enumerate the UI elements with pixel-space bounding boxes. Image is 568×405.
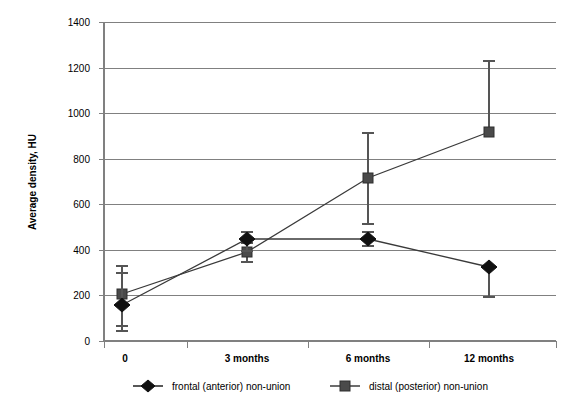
y-axis-title: Average density, HU xyxy=(27,134,38,230)
x-tick-label-6-months: 6 months xyxy=(346,353,391,364)
series-frontal-anterior xyxy=(114,232,497,331)
chart-legend: frontal (anterior) non-union distal (pos… xyxy=(133,380,488,392)
error-bars-frontal xyxy=(116,232,495,331)
data-point-distal-6 xyxy=(363,173,373,183)
x-tick-label-12-months: 12 months xyxy=(464,353,514,364)
x-tick-label-3-months: 3 months xyxy=(225,353,270,364)
data-point-frontal-6 xyxy=(360,232,376,246)
y-tick-label-1200: 1200 xyxy=(68,63,91,74)
error-bars-distal xyxy=(116,61,495,326)
series-distal-posterior xyxy=(116,61,495,326)
data-point-frontal-3 xyxy=(239,232,255,246)
legend-item-frontal[interactable]: frontal (anterior) non-union xyxy=(133,380,290,392)
y-tick-label-1400: 1400 xyxy=(68,17,91,28)
line-chart: Average density, HU 1400 1200 1000 800 6… xyxy=(0,0,568,405)
series-line-distal xyxy=(122,132,489,294)
chart-container: Average density, HU 1400 1200 1000 800 6… xyxy=(0,0,568,405)
data-point-distal-12 xyxy=(484,127,494,137)
data-point-frontal-12 xyxy=(481,260,497,274)
x-tick-label-0: 0 xyxy=(122,353,128,364)
legend-item-distal[interactable]: distal (posterior) non-union xyxy=(330,381,488,392)
diamond-marker-icon xyxy=(141,380,155,392)
y-tick-label-800: 800 xyxy=(73,154,90,165)
legend-label-frontal: frontal (anterior) non-union xyxy=(172,381,290,392)
square-marker-icon xyxy=(340,381,350,391)
y-tick-label-600: 600 xyxy=(73,199,90,210)
y-tick-label-0: 0 xyxy=(84,336,90,347)
y-tick-label-400: 400 xyxy=(73,245,90,256)
legend-label-distal: distal (posterior) non-union xyxy=(369,381,488,392)
y-tick-label-200: 200 xyxy=(73,290,90,301)
y-tick-label-1000: 1000 xyxy=(68,108,91,119)
data-point-frontal-0 xyxy=(114,298,130,312)
